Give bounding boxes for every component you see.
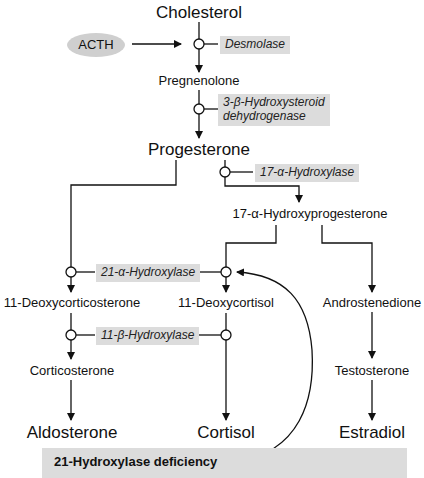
deficiency-label: 21-Hydroxylase deficiency (42, 448, 407, 478)
metabolite-progesterone: Progesterone (148, 141, 250, 158)
enzyme-3b-hsd: 3-β-Hydroxysteroid dehydrogenase (218, 94, 330, 126)
enzyme-21a-hydroxylase: 21-α-Hydroxylase (96, 264, 200, 282)
acth-node: ACTH (67, 33, 125, 57)
metabolite-corticosterone: Corticosterone (30, 364, 115, 377)
metabolite-aldosterone: Aldosterone (27, 424, 118, 441)
metabolite-estradiol: Estradiol (339, 424, 405, 441)
metabolite-cholesterol: Cholesterol (156, 4, 242, 21)
metabolite-pregnenolone: Pregnenolone (159, 74, 240, 87)
enzyme-desmolase: Desmolase (220, 36, 290, 54)
metabolite-11-deoxycorticosterone: 11-Deoxycorticosterone (4, 296, 140, 309)
metabolite-androstenedione: Androstenedione (323, 296, 421, 309)
enzyme-3b-hsd-line2: dehydrogenase (223, 110, 325, 124)
metabolite-17-hydroxyprogesterone: 17-α-Hydroxyprogesterone (233, 207, 388, 220)
metabolite-testosterone: Testosterone (335, 364, 409, 377)
enzyme-3b-hsd-line1: 3-β-Hydroxysteroid (223, 96, 325, 110)
enzyme-17a-hydroxylase: 17-α-Hydroxylase (255, 164, 359, 182)
metabolite-cortisol: Cortisol (197, 424, 255, 441)
metabolite-11-deoxycortisol: 11-Deoxycortisol (178, 296, 274, 309)
enzyme-11b-hydroxylase: 11-β-Hydroxylase (96, 327, 199, 345)
